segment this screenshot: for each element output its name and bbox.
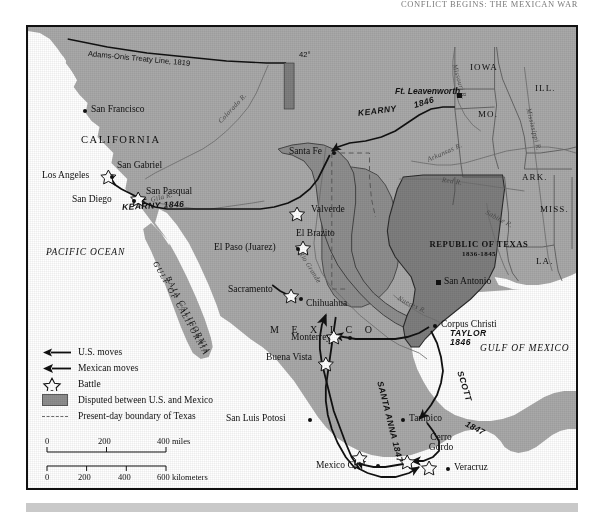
scale-bar-kilometers: 0 200 400 600 kilometers: [45, 466, 208, 482]
us-moves-arrow-icon: [42, 347, 76, 358]
legend-item-disputed: Disputed between U.S. and Mexico: [42, 392, 257, 408]
city-marker-santa-fe: [332, 151, 336, 155]
svg-text:600 kilometers: 600 kilometers: [157, 472, 208, 482]
dashed-line-icon: [42, 416, 76, 417]
city-marker-san-luis-potosi: [308, 418, 312, 422]
city-marker-monterrey: [348, 336, 352, 340]
city-marker-los-angeles: [110, 175, 114, 179]
city-marker-el-paso: [296, 247, 300, 251]
city-marker-tampico: [401, 418, 405, 422]
legend-label-battle: Battle: [76, 379, 101, 389]
svg-text:200: 200: [98, 436, 111, 446]
legend-item-us-moves: U.S. moves: [42, 344, 257, 360]
legend-item-battle: Battle: [42, 376, 257, 392]
city-marker-san-antonio: [436, 280, 441, 285]
city-marker-san-francisco: [83, 109, 87, 113]
svg-text:0: 0: [45, 436, 49, 446]
svg-text:400 miles: 400 miles: [157, 436, 190, 446]
legend-label-disputed: Disputed between U.S. and Mexico: [76, 395, 213, 405]
latitude-42-marker-bar: [284, 63, 294, 109]
legend-label-mexican-moves: Mexican moves: [76, 363, 138, 373]
mexican-moves-arrow-icon: [42, 363, 76, 374]
legend-label-present-day-texas: Present-day boundary of Texas: [76, 411, 196, 421]
map-frame: Adams-Onis Treaty Line, 1819 42° PACIFIC…: [26, 25, 578, 490]
svg-text:200: 200: [78, 472, 91, 482]
city-marker-mexico-city: [376, 464, 380, 468]
battle-star-icon: [42, 377, 76, 391]
legend-item-mexican-moves: Mexican moves: [42, 360, 257, 376]
running-head: Conflict Begins: The Mexican War: [401, 0, 578, 9]
scale-bars: 0 200 400 miles 0 200 400 600: [44, 434, 244, 486]
city-marker-ft-leavenworth: [457, 93, 462, 98]
scale-bar-miles: 0 200 400 miles: [45, 436, 190, 452]
city-marker-san-diego: [132, 199, 136, 203]
disputed-swatch-icon: [42, 394, 76, 406]
legend-label-us-moves: U.S. moves: [76, 347, 122, 357]
city-marker-veracruz: [446, 467, 450, 471]
city-marker-corpus-christi: [433, 324, 437, 328]
svg-text:400: 400: [118, 472, 131, 482]
page-root: Conflict Begins: The Mexican War: [0, 0, 600, 516]
svg-text:0: 0: [45, 472, 49, 482]
map-legend: U.S. moves Mexican moves: [42, 344, 257, 424]
legend-item-present-day-texas: Present-day boundary of Texas: [42, 408, 257, 424]
bottom-gray-bar: [26, 503, 578, 512]
city-marker-chihuahua: [299, 297, 303, 301]
map-canvas: Adams-Onis Treaty Line, 1819 42° PACIFIC…: [28, 27, 576, 488]
